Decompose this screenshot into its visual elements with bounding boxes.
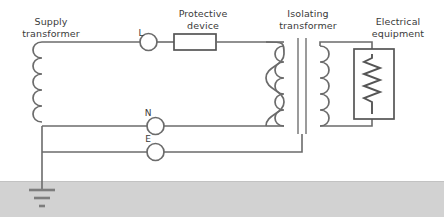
supply-transformer-label-line1: Supply — [8, 16, 94, 28]
supply-transformer-label-line2: transformer — [8, 28, 94, 40]
circuit-diagram: Supply transformer Protective device Iso… — [0, 0, 444, 217]
isolating-transformer-label-line2: transformer — [265, 20, 351, 32]
electrical-equipment-label: Electrical equipment — [355, 16, 441, 39]
earth-terminal-label: E — [140, 134, 156, 144]
earth-terminal-circle — [147, 144, 164, 161]
protective-device-label-line1: Protective — [160, 8, 246, 20]
live-terminal-label: L — [133, 28, 149, 38]
electrical-equipment-box — [354, 49, 394, 119]
earth-wire-right — [164, 134, 302, 152]
supply-transformer-coil — [33, 42, 42, 122]
electrical-equipment-label-line1: Electrical — [355, 16, 441, 28]
protective-device-box — [174, 34, 216, 50]
supply-transformer-symbol — [33, 42, 42, 122]
neutral-line-group — [42, 118, 266, 135]
isolating-transformer-label-line1: Isolating — [265, 8, 351, 20]
supply-transformer-label: Supply transformer — [8, 16, 94, 39]
electrical-equipment-label-line2: equipment — [355, 28, 441, 40]
protective-device-label-line2: device — [160, 20, 246, 32]
ground-band — [0, 181, 444, 217]
ground-band-group — [0, 181, 444, 217]
isolating-secondary-coil — [320, 46, 329, 126]
protective-device-label: Protective device — [160, 8, 246, 31]
isolating-transformer-symbol — [266, 38, 329, 134]
earth-line-group — [42, 134, 302, 161]
electrical-equipment-symbol — [354, 49, 394, 119]
neutral-terminal-label: N — [140, 108, 156, 118]
neutral-terminal-circle — [147, 118, 164, 135]
isolating-transformer-label: Isolating transformer — [265, 8, 351, 31]
